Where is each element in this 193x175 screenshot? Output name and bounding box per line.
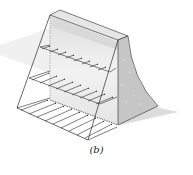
figure-caption: (b)	[0, 144, 193, 155]
